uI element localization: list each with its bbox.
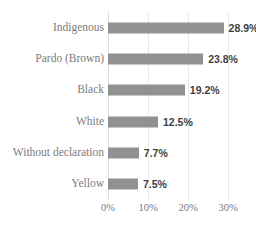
value-label-white: 12.5% [163,116,193,127]
bar-white [108,116,158,127]
bar-black [108,85,185,96]
category-label-yellow: Yellow [71,178,104,190]
bar-rows: Indigenous 28.9% Pardo (Brown) 23.8% Bla… [0,12,256,200]
bar-row: White 12.5% [0,106,256,137]
x-tick-label-0: 0% [101,203,115,214]
value-label-indigenous: 28.9% [229,22,256,33]
bar-indigenous [108,22,224,33]
value-label-without-declaration: 7.7% [144,148,168,159]
x-tick-label-30: 30% [218,203,237,214]
x-tick-label-20: 20% [178,203,197,214]
category-label-indigenous: Indigenous [53,22,104,34]
bar-row: Black 19.2% [0,75,256,106]
category-label-without-declaration: Without declaration [13,147,104,159]
bar-row: Yellow 7.5% [0,169,256,200]
bar-row: Without declaration 7.7% [0,137,256,168]
x-tick-label-10: 10% [138,203,157,214]
value-label-black: 19.2% [190,85,220,96]
category-label-white: White [76,116,104,128]
bar-pardo-brown [108,53,203,64]
category-label-black: Black [77,84,104,96]
bar-group-black: 19.2% [108,85,220,96]
bar-group-yellow: 7.5% [108,179,167,190]
bar-group-pardo-brown: 23.8% [108,53,238,64]
bar-chart: Indigenous 28.9% Pardo (Brown) 23.8% Bla… [0,0,256,240]
bar-without-declaration [108,147,139,158]
category-label-pardo-brown: Pardo (Brown) [35,53,104,65]
value-label-pardo-brown: 23.8% [208,54,238,65]
bar-row: Indigenous 28.9% [0,12,256,43]
bar-group-without-declaration: 7.7% [108,147,168,158]
bar-group-indigenous: 28.9% [108,22,256,33]
bar-group-white: 12.5% [108,116,193,127]
x-axis: 0% 10% 20% 30% [108,203,229,219]
bar-row: Pardo (Brown) 23.8% [0,43,256,74]
value-label-yellow: 7.5% [143,179,167,190]
bar-yellow [108,179,138,190]
